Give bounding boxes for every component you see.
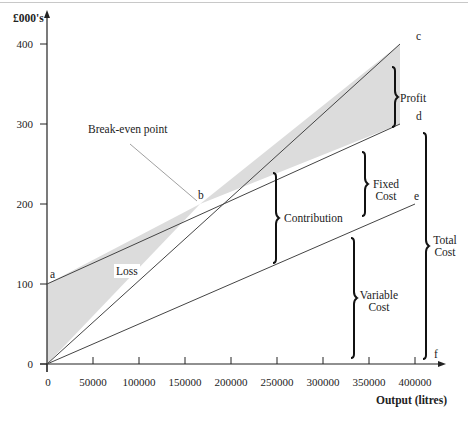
x-tick-100000: 100000 bbox=[123, 376, 157, 388]
x-tick-150000: 150000 bbox=[169, 376, 203, 388]
x-tick-0: 0 bbox=[45, 376, 51, 388]
x-tick-350000: 350000 bbox=[353, 376, 387, 388]
profit-label: Profit bbox=[400, 92, 427, 104]
y-axis-label: £000's bbox=[13, 12, 44, 24]
total-cost-brace bbox=[423, 133, 429, 359]
y-tick-100: 100 bbox=[17, 278, 34, 290]
variable-cost-label-1: Variable bbox=[360, 289, 398, 301]
y-tick-0: 0 bbox=[28, 358, 34, 370]
loss-region bbox=[47, 204, 200, 364]
fixed-cost-brace bbox=[362, 152, 368, 216]
total-cost-label-2: Cost bbox=[434, 246, 456, 258]
x-tick-300000: 300000 bbox=[307, 376, 341, 388]
break-even-label: Break-even point bbox=[88, 123, 168, 136]
x-axis-arrow-icon bbox=[438, 361, 446, 367]
point-c: c bbox=[416, 30, 421, 42]
fixed-cost-label-2: Cost bbox=[375, 190, 397, 202]
x-tick-50000: 50000 bbox=[79, 376, 107, 388]
point-e: e bbox=[414, 190, 419, 202]
point-b: b bbox=[198, 189, 204, 201]
y-axis-arrow-icon bbox=[44, 10, 50, 18]
total-cost-label-1: Total bbox=[433, 234, 456, 246]
x-axis-label: Output (litres) bbox=[376, 394, 447, 407]
y-tick-300: 300 bbox=[17, 118, 34, 130]
x-tick-250000: 250000 bbox=[261, 376, 295, 388]
profit-region bbox=[200, 44, 400, 204]
variable-cost-brace bbox=[351, 238, 357, 358]
point-f: f bbox=[434, 348, 438, 360]
total-cost-line bbox=[47, 124, 400, 284]
fixed-cost-label-1: Fixed bbox=[373, 178, 399, 190]
x-tick-200000: 200000 bbox=[215, 376, 249, 388]
y-ticks bbox=[40, 44, 47, 364]
point-a: a bbox=[50, 268, 55, 280]
break-even-chart: 0 100 200 300 400 0 50000 100000 150000 … bbox=[0, 0, 468, 421]
loss-label: Loss bbox=[116, 265, 138, 277]
point-d: d bbox=[416, 110, 422, 122]
x-tick-400000: 400000 bbox=[399, 376, 433, 388]
y-tick-200: 200 bbox=[17, 198, 34, 210]
contribution-brace bbox=[273, 173, 279, 263]
contribution-label: Contribution bbox=[284, 212, 343, 224]
variable-cost-label-2: Cost bbox=[368, 301, 390, 313]
break-even-pointer bbox=[130, 144, 197, 201]
y-tick-400: 400 bbox=[17, 38, 34, 50]
